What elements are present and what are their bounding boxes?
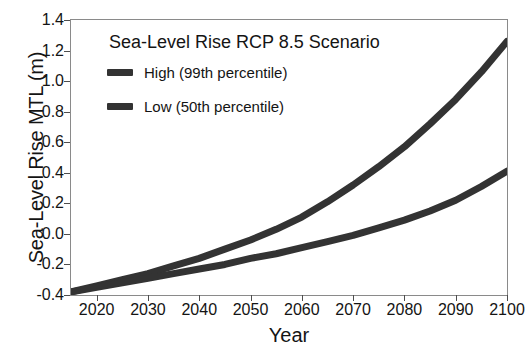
y-axis-tick-labels: 1.41.21.00.80.60.40.20.0-0.2-0.4 — [14, 0, 64, 352]
legend-item: High (99th percentile) — [107, 64, 287, 81]
x-axis-tick-mark — [507, 295, 508, 301]
y-axis-tick-label: 1.2 — [20, 43, 64, 59]
series-canvas — [71, 20, 507, 295]
legend-swatch-icon — [107, 69, 133, 76]
y-axis-tick-label: -0.4 — [20, 287, 64, 303]
y-axis-tick-mark — [64, 142, 70, 143]
x-axis-title: Year — [70, 324, 508, 347]
x-axis-tick-mark — [199, 295, 200, 301]
y-axis-tick-label: 0.2 — [20, 195, 64, 211]
legend-label: High (99th percentile) — [144, 64, 287, 81]
x-axis-tick-mark — [404, 295, 405, 301]
sea-level-rise-chart: Sea-Level Rise MTL (m) 1.41.21.00.80.60.… — [0, 0, 532, 352]
x-axis-tick-mark — [456, 295, 457, 301]
y-axis-tick-mark — [64, 234, 70, 235]
x-axis-tick-mark — [302, 295, 303, 301]
y-axis-tick-mark — [64, 51, 70, 52]
y-axis-tick-label: -0.2 — [20, 256, 64, 272]
legend-swatch-icon — [107, 103, 133, 110]
y-axis-tick-label: 0.6 — [20, 134, 64, 150]
y-axis-tick-mark — [64, 173, 70, 174]
y-axis-tick-mark — [64, 112, 70, 113]
y-axis-tick-mark — [64, 295, 70, 296]
x-axis-tick-label: 2100 — [475, 302, 532, 318]
y-axis-tick-label: 1.4 — [20, 12, 64, 28]
legend-item: Low (50th percentile) — [107, 98, 284, 115]
legend-label: Low (50th percentile) — [144, 98, 284, 115]
y-axis-tick-label: 0.8 — [20, 104, 64, 120]
x-axis-tick-mark — [97, 295, 98, 301]
y-axis-tick-label: 0.4 — [20, 165, 64, 181]
y-axis-tick-label: 1.0 — [20, 73, 64, 89]
y-axis-tick-mark — [64, 203, 70, 204]
chart-title: Sea-Level Rise RCP 8.5 Scenario — [109, 32, 380, 53]
y-axis-tick-mark — [64, 81, 70, 82]
y-axis-tick-mark — [64, 264, 70, 265]
y-axis-tick-mark — [64, 20, 70, 21]
y-axis-tick-label: 0.0 — [20, 226, 64, 242]
x-axis-tick-mark — [353, 295, 354, 301]
plot-area: Sea-Level Rise RCP 8.5 Scenario High (99… — [70, 19, 508, 296]
x-axis-tick-mark — [148, 295, 149, 301]
x-axis-tick-mark — [251, 295, 252, 301]
